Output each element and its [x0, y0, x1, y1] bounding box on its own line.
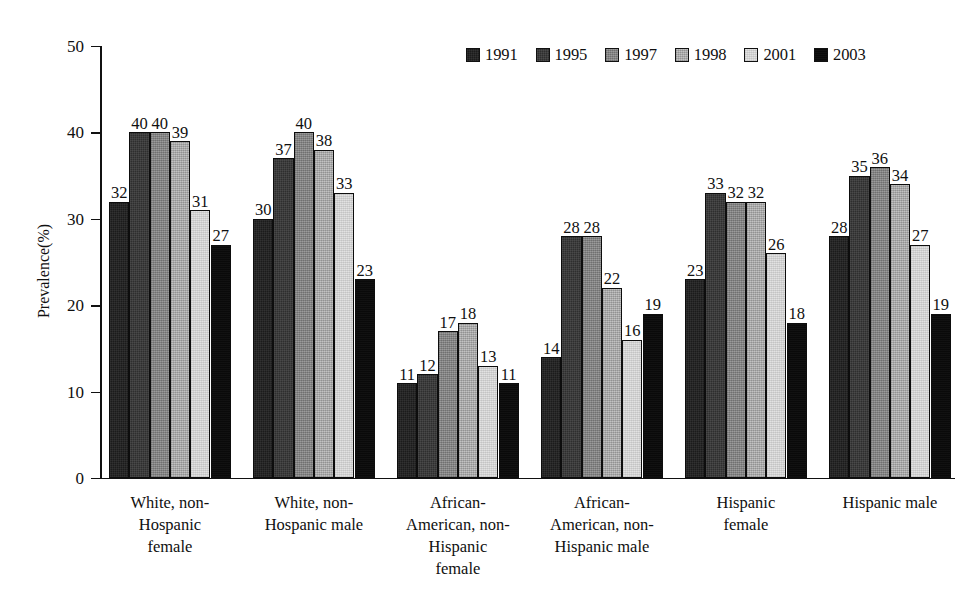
category-label-line: African- — [374, 492, 542, 514]
bar[interactable]: 19 — [931, 314, 951, 478]
bar-value-label: 34 — [892, 168, 909, 185]
bar-value-label: 28 — [831, 220, 848, 237]
bar-group: 324040393127 — [109, 46, 231, 478]
bar[interactable]: 18 — [458, 323, 478, 479]
bar-value-label: 32 — [727, 185, 744, 202]
bar[interactable]: 28 — [582, 236, 602, 478]
bar-value-label: 17 — [439, 315, 456, 332]
bar-group: 283536342719 — [829, 46, 951, 478]
bar[interactable]: 17 — [438, 331, 458, 478]
y-axis-tick — [91, 132, 100, 133]
bar-value-label: 23 — [687, 263, 704, 280]
bar-value-label: 12 — [419, 358, 436, 375]
bar[interactable]: 11 — [397, 383, 417, 478]
bar-value-label: 18 — [460, 306, 477, 323]
bar-value-label: 22 — [604, 271, 621, 288]
bar[interactable]: 40 — [129, 132, 149, 478]
bar-value-label: 32 — [111, 185, 128, 202]
bar[interactable]: 16 — [622, 340, 642, 478]
bar[interactable]: 27 — [211, 245, 231, 478]
bar[interactable]: 27 — [910, 245, 930, 478]
bar[interactable]: 32 — [746, 202, 766, 479]
bar[interactable]: 39 — [170, 141, 190, 478]
category-label-line: African- — [518, 492, 686, 514]
bar-value-label: 14 — [543, 341, 560, 358]
category-label-line: female — [374, 558, 542, 580]
bar-value-label: 18 — [788, 306, 805, 323]
y-axis-tick — [91, 305, 100, 306]
bar-chart: 199119951997199820012003 01020304050 Pre… — [0, 0, 980, 607]
bar[interactable]: 36 — [870, 167, 890, 478]
y-axis-tick — [91, 219, 100, 220]
bar[interactable]: 32 — [726, 202, 746, 479]
bar-value-label: 19 — [644, 297, 661, 314]
bar[interactable]: 19 — [643, 314, 663, 478]
category-label-line: female — [86, 536, 254, 558]
bar[interactable]: 12 — [417, 374, 437, 478]
bar-value-label: 11 — [501, 367, 517, 384]
bar[interactable]: 11 — [499, 383, 519, 478]
bar[interactable]: 38 — [314, 150, 334, 478]
category-label-line: White, non- — [86, 492, 254, 514]
category-label-line: female — [662, 514, 830, 536]
bar[interactable]: 13 — [478, 366, 498, 478]
x-axis-category-label: White, non-Hospanicfemale — [86, 492, 254, 558]
bar[interactable]: 23 — [685, 279, 705, 478]
bar-value-label: 33 — [336, 176, 353, 193]
bar-value-label: 40 — [151, 116, 168, 133]
bar[interactable]: 35 — [849, 176, 869, 478]
bar[interactable]: 26 — [766, 253, 786, 478]
category-label-line: Hispanic male — [518, 536, 686, 558]
category-label-line: American, non- — [518, 514, 686, 536]
category-label-line: Hispanic — [374, 536, 542, 558]
bar-value-label: 27 — [912, 228, 929, 245]
bar-group: 303740383323 — [253, 46, 375, 478]
category-label-line: Hispanic — [662, 492, 830, 514]
bar-value-label: 35 — [851, 159, 868, 176]
bar[interactable]: 23 — [355, 279, 375, 478]
bar[interactable]: 32 — [109, 202, 129, 479]
bar[interactable]: 31 — [190, 210, 210, 478]
y-axis-tick — [91, 392, 100, 393]
bar-value-label: 16 — [624, 323, 641, 340]
bar-group: 142828221619 — [541, 46, 663, 478]
bar-value-label: 32 — [748, 185, 765, 202]
bar-value-label: 30 — [255, 202, 272, 219]
plot-area: 3240403931273037403833231112171813111428… — [100, 46, 955, 478]
bar-value-label: 23 — [356, 263, 373, 280]
bar[interactable]: 40 — [294, 132, 314, 478]
bar-value-label: 38 — [316, 133, 333, 150]
bar[interactable]: 40 — [150, 132, 170, 478]
y-axis-tick-label: 0 — [44, 470, 84, 487]
category-label-line: White, non- — [230, 492, 398, 514]
bar-value-label: 28 — [563, 220, 580, 237]
bar[interactable]: 33 — [705, 193, 725, 478]
bar-value-label: 31 — [192, 194, 209, 211]
bar-value-label: 11 — [399, 367, 415, 384]
category-label-line: American, non- — [374, 514, 542, 536]
bar[interactable]: 14 — [541, 357, 561, 478]
bar-value-label: 28 — [583, 220, 600, 237]
x-axis-category-label: Hispanic male — [806, 492, 974, 514]
x-axis-category-label: African-American, non-Hispanic male — [518, 492, 686, 558]
bar[interactable]: 18 — [787, 323, 807, 479]
bar[interactable]: 37 — [273, 158, 293, 478]
bar-group: 233332322618 — [685, 46, 807, 478]
bar-value-label: 36 — [871, 151, 888, 168]
bar-value-label: 13 — [480, 349, 497, 366]
bar[interactable]: 28 — [829, 236, 849, 478]
bar-value-label: 33 — [707, 176, 724, 193]
bar-value-label: 37 — [275, 142, 292, 159]
bar[interactable]: 33 — [334, 193, 354, 478]
y-axis-tick — [91, 46, 100, 47]
bar[interactable]: 22 — [602, 288, 622, 478]
bar[interactable]: 28 — [561, 236, 581, 478]
y-axis-title: Prevalence(%) — [35, 191, 53, 351]
bar[interactable]: 30 — [253, 219, 273, 478]
bar-value-label: 39 — [172, 125, 189, 142]
y-axis-tick-label: 50 — [44, 38, 84, 55]
x-axis-category-label: White, non-Hospanic male — [230, 492, 398, 536]
x-axis-category-label: African-American, non-Hispanicfemale — [374, 492, 542, 580]
y-axis-tick-label: 10 — [44, 383, 84, 400]
bar[interactable]: 34 — [890, 184, 910, 478]
